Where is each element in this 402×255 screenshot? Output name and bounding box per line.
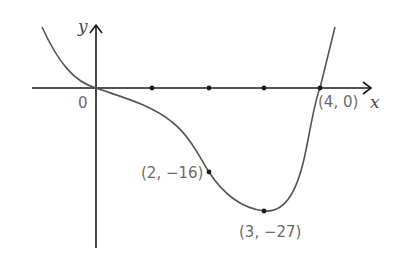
x-axis-label: x [370,92,380,112]
point-3-minus27-dot [262,209,267,214]
x-tick-dot-1 [150,86,155,91]
point-label-4-0: (4, 0) [318,93,358,111]
point-label-3-minus27: (3, −27) [239,223,301,241]
y-axis-label: y [77,16,88,36]
x-tick-dot-3 [262,86,267,91]
point-label-2-minus16: (2, −16) [141,164,203,182]
x-tick-dot-2 [207,86,212,91]
point-2-minus16-dot [207,170,212,175]
point-4-0-dot [318,86,323,91]
function-graph: y x 0 (4, 0) (2, −16) (3, −27) [0,0,402,255]
origin-label: 0 [78,94,88,112]
curve [42,27,335,211]
